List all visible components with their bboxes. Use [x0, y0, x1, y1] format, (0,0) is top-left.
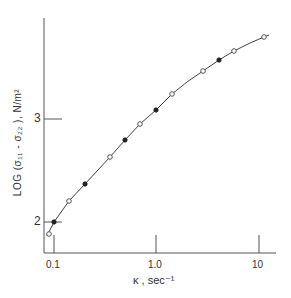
x-axis-label: κ , sec⁻¹: [133, 274, 174, 287]
data-point-open: [201, 69, 206, 74]
open-markers: [47, 35, 267, 237]
y-tick-label-2: 2: [34, 214, 41, 228]
filled-markers: [52, 58, 221, 224]
chart-canvas: [0, 0, 291, 298]
data-point-open: [262, 35, 267, 40]
data-point-open: [108, 155, 113, 160]
y-axis-label: LOG (σ₁₁ - σ₂₂ ), N/m²: [12, 68, 23, 218]
data-point-filled: [83, 182, 87, 186]
x-tick-label-1.0: 1.0: [148, 259, 162, 270]
data-point-filled: [217, 58, 221, 62]
data-point-open: [67, 199, 72, 204]
data-point-open: [232, 49, 237, 54]
x-tick-label-10: 10: [252, 259, 263, 270]
data-point-filled: [52, 220, 56, 224]
data-point-open: [138, 122, 143, 127]
data-point-open: [47, 232, 52, 237]
data-point-filled: [154, 108, 158, 112]
fitted-curve: [47, 35, 269, 236]
x-tick-label-0.1: 0.1: [46, 259, 60, 270]
data-point-filled: [123, 138, 127, 142]
data-point-open: [170, 92, 175, 97]
y-tick-label-3: 3: [34, 111, 41, 125]
